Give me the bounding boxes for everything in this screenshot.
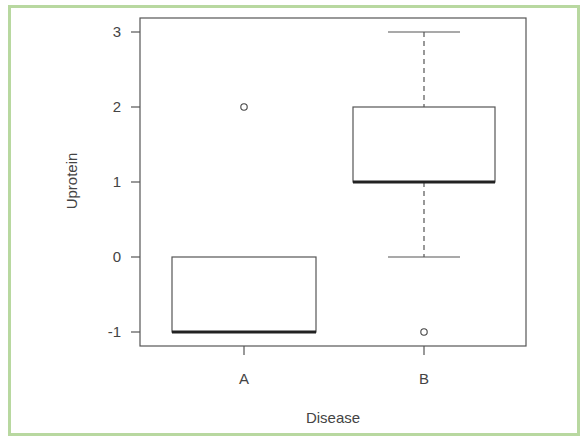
x-tick-label: A: [239, 370, 249, 387]
y-tick-label: 2: [113, 98, 121, 115]
iqr-box: [172, 257, 316, 332]
x-tick-label: B: [419, 370, 429, 387]
y-tick-label: 0: [113, 248, 121, 265]
x-axis: AB: [239, 346, 429, 387]
box-A: [172, 104, 316, 332]
y-tick-label: 1: [113, 173, 121, 190]
y-tick-label: -1: [108, 323, 121, 340]
box-B: [353, 32, 495, 335]
y-axis-title: Uprotein: [63, 153, 80, 210]
y-tick-label: 3: [113, 23, 121, 40]
boxplot-chart: -10123 AB Disease Uprotein: [0, 0, 586, 447]
outlier-point: [421, 329, 427, 335]
outlier-point: [241, 104, 247, 110]
iqr-box: [353, 107, 495, 182]
y-axis: -10123: [108, 23, 140, 340]
boxes: [172, 32, 495, 335]
x-axis-title: Disease: [306, 409, 360, 426]
